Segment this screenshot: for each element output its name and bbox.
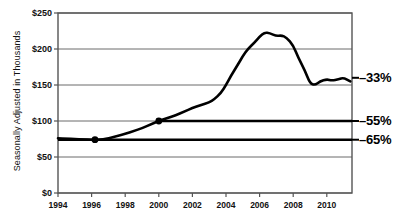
y-tick-label: $100 xyxy=(8,116,52,126)
reference-lines-group xyxy=(58,121,352,140)
y-tick-label: $250 xyxy=(8,8,52,18)
y-tick-label: $200 xyxy=(8,44,52,54)
x-tick-label: 2010 xyxy=(307,200,347,210)
y-tick-label: $150 xyxy=(8,80,52,90)
line-chart-plot xyxy=(0,0,403,224)
chart-container: Seasonally Adjusted in Thousands $0$50$1… xyxy=(0,0,403,224)
y-tick-label: $0 xyxy=(8,188,52,198)
1996-decline-annotation: –65% xyxy=(359,133,391,147)
annotation-tick-group xyxy=(352,78,359,140)
2000-decline-annotation: –55% xyxy=(359,114,391,128)
gridlines-group xyxy=(54,13,352,193)
peak-decline-annotation: –33% xyxy=(359,71,391,85)
y-tick-label: $50 xyxy=(8,152,52,162)
